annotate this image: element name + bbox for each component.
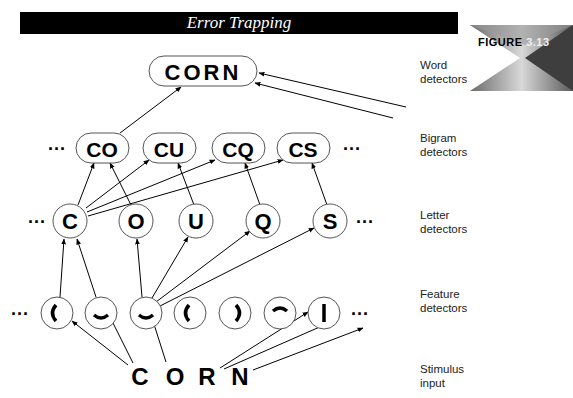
feature-ellipsis-left: ··· (11, 304, 29, 324)
label-line: input (420, 376, 464, 390)
feature-detector-bottom-curve-1 (85, 297, 117, 329)
level-label-letter: Letter detectors (420, 208, 467, 236)
bigram-node-label: CS (288, 138, 317, 161)
letter-detector-c: C (53, 204, 87, 238)
level-label-feature: Feature detectors (420, 287, 467, 315)
bigram-detector-co: CO (76, 133, 129, 163)
letter-node-label: S (323, 209, 338, 234)
label-line: Bigram (420, 131, 467, 145)
letter-node-label: U (188, 209, 204, 234)
label-line: Stimulus (420, 362, 464, 376)
feature-detector-left-curve-1 (41, 297, 73, 329)
feature-detector-right-curve (219, 297, 251, 329)
label-line: Letter (420, 208, 467, 222)
label-line: detectors (420, 222, 467, 236)
letter-node-label: C (62, 209, 78, 234)
stimulus-letter-o: O (166, 363, 185, 390)
feature-detector-top-curve (264, 297, 296, 329)
label-line: Feature (420, 287, 467, 301)
letter-detector-s: S (313, 204, 347, 238)
stimulus-letter-c: C (131, 363, 148, 390)
stimulus-letter-r: R (198, 363, 215, 390)
letter-detector-o: O (119, 204, 153, 238)
level-label-stimulus: Stimulus input (420, 362, 464, 390)
bigram-detector-cq: CQ (212, 133, 265, 163)
bigram-node-label: CU (154, 138, 184, 161)
label-line: detectors (420, 301, 467, 315)
level-label-word: Word detectors (420, 58, 467, 86)
letter-node-label: O (127, 209, 144, 234)
feature-detector-bottom-curve-2 (130, 297, 162, 329)
letter-detector-q: Q (246, 204, 280, 238)
bigram-ellipsis-right: ··· (343, 139, 361, 159)
bigram-node-label: CQ (222, 138, 254, 161)
feature-ellipsis-right: ··· (351, 304, 369, 324)
level-label-bigram: Bigram detectors (420, 131, 467, 159)
label-line: Word (420, 58, 467, 72)
bigram-ellipsis-left: ··· (48, 139, 66, 159)
letter-ellipsis-left: ··· (28, 212, 46, 232)
letter-detector-u: U (179, 204, 213, 238)
stimulus-letter-n: N (231, 363, 248, 390)
letter-node-label: Q (254, 209, 271, 234)
interactive-activation-diagram: CORN ··· CO CU CQ CS ··· ··· C O U Q S ·… (0, 0, 573, 398)
label-line: detectors (420, 72, 467, 86)
bigram-node-label: CO (86, 138, 118, 161)
bigram-detector-cs: CS (277, 133, 330, 163)
word-detector-corn: CORN (149, 56, 257, 86)
bigram-detector-cu: CU (143, 133, 196, 163)
feature-detector-left-curve-2 (174, 297, 206, 329)
letter-ellipsis-right: ··· (356, 212, 374, 232)
label-line: detectors (420, 145, 467, 159)
word-node-label: CORN (165, 60, 242, 85)
